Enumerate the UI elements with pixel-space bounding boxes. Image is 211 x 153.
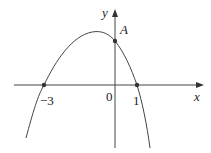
- parabola-curve: [26, 32, 150, 148]
- point-A: [113, 39, 117, 43]
- x-axis-arrow-icon: [196, 82, 204, 88]
- x-axis-label: x: [193, 89, 200, 104]
- y-axis-arrow-icon: [112, 9, 118, 17]
- tick-label-neg3: −3: [40, 93, 54, 108]
- root-point-neg3: [42, 83, 46, 87]
- point-A-label: A: [119, 22, 128, 37]
- y-axis-label: y: [100, 5, 108, 20]
- graph-canvas: y x A 0 −3 1: [0, 0, 211, 153]
- root-point-1: [135, 83, 139, 87]
- tick-label-1: 1: [133, 93, 140, 108]
- parabola-diagram: y x A 0 −3 1: [0, 0, 211, 153]
- origin-label: 0: [106, 89, 113, 104]
